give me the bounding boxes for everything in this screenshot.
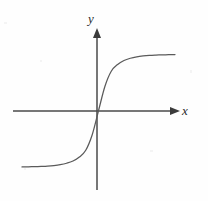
y-axis-arrowhead-icon — [93, 28, 101, 38]
x-axis-label: x — [182, 104, 188, 117]
y-axis-label: y — [88, 12, 94, 25]
figure-container: y x — [0, 0, 208, 201]
coordinate-plot — [0, 0, 208, 201]
x-axis-arrowhead-icon — [170, 107, 180, 115]
